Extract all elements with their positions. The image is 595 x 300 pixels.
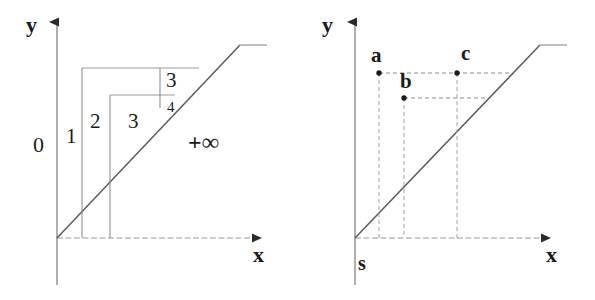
right-diagonal-line — [355, 45, 540, 238]
region-label-4: 4 — [167, 100, 175, 115]
region-label-3-wide: 3 — [128, 111, 139, 132]
infinity-label: +∞ — [188, 130, 219, 154]
region-label-2: 2 — [90, 111, 101, 132]
source-label-s: s — [358, 253, 366, 273]
figure-canvas: y x 0 1 2 3 3 4 +∞ y x a b c s — [0, 0, 595, 300]
data-point-c — [454, 70, 459, 75]
right-y-axis-label: y — [322, 14, 333, 36]
figure-svg — [0, 0, 595, 300]
point-label-c: c — [461, 43, 470, 64]
left-y-axis-label: y — [26, 14, 37, 36]
region-label-0: 0 — [33, 134, 44, 156]
data-point-a — [376, 70, 381, 75]
left-x-axis-label: x — [253, 244, 264, 266]
region-label-3-narrow: 3 — [166, 70, 177, 91]
point-label-a: a — [371, 45, 382, 66]
right-x-axis-label: x — [546, 244, 557, 266]
data-point-b — [401, 95, 406, 100]
region-label-1: 1 — [66, 126, 77, 147]
left-panel — [57, 22, 267, 285]
point-label-b: b — [400, 71, 412, 92]
